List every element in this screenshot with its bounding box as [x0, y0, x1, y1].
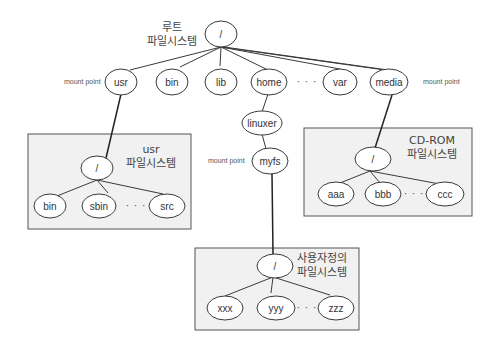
svg-text:/: /: [220, 29, 223, 40]
edge-linuxer-myfs: [262, 134, 266, 149]
edge-root-var: [221, 47, 340, 69]
node-bin: bin: [156, 69, 188, 95]
mount-point-label-myfs: mount point: [208, 157, 245, 165]
node-root: /: [205, 21, 237, 47]
usr-fs-label-line1: usr: [142, 143, 160, 156]
svg-text:/: /: [372, 154, 375, 165]
node-lib: lib: [205, 69, 237, 95]
svg-text:sbin: sbin: [90, 201, 108, 212]
svg-text:ccc: ccc: [438, 189, 453, 200]
edge-root-media-2: [224, 47, 388, 70]
node-usr-fs-bin: bin: [34, 194, 66, 218]
svg-text:xxx: xxx: [218, 303, 233, 314]
filesystem-tree-diagram: 루트 파일시스템 / usr bin lib home · · · var me…: [0, 0, 499, 351]
svg-text:bin: bin: [43, 201, 56, 212]
node-user-fs-xxx: xxx: [207, 296, 243, 320]
cdrom-fs-label-line2: 파일시스템: [407, 147, 457, 161]
svg-text:yyy: yyy: [269, 303, 284, 314]
user-fs-ellipsis: · · ·: [297, 302, 318, 313]
svg-text:aaa: aaa: [328, 189, 345, 200]
usr-fs-label-line2: 파일시스템: [126, 156, 176, 170]
node-linuxer: linuxer: [242, 111, 282, 135]
node-usr-fs-root: /: [81, 156, 113, 180]
mount-point-label-media: mount point: [423, 78, 460, 86]
node-user-fs-zzz: zzz: [318, 296, 354, 320]
node-usr-fs-src: src: [149, 194, 185, 218]
node-myfs: myfs: [252, 148, 288, 174]
edge-root-usr: [130, 47, 221, 70]
svg-text:zzz: zzz: [329, 303, 344, 314]
svg-text:media: media: [375, 77, 403, 88]
cdrom-fs-label-line1: CD-ROM: [409, 134, 455, 147]
usr-fs-ellipsis: · · ·: [126, 200, 147, 211]
svg-text:/: /: [274, 261, 277, 272]
user-fs-label-line2: 파일시스템: [297, 265, 347, 279]
node-cdrom-ccc: ccc: [426, 182, 464, 206]
node-usr-fs-sbin: sbin: [82, 194, 116, 218]
svg-text:src: src: [160, 201, 173, 212]
svg-text:linuxer: linuxer: [247, 118, 277, 129]
svg-text:bbb: bbb: [375, 189, 392, 200]
node-home: home: [251, 69, 287, 95]
node-cdrom-bbb: bbb: [365, 182, 401, 206]
node-media: media: [370, 69, 408, 95]
user-fs-label-line1: 사용자정의: [297, 252, 347, 265]
edge-home-linuxer: [262, 94, 268, 112]
node-cdrom-root: /: [355, 147, 391, 171]
node-usr: usr: [105, 69, 137, 95]
node-cdrom-aaa: aaa: [318, 182, 354, 206]
root-ellipsis: · · ·: [297, 76, 318, 87]
svg-text:/: /: [96, 163, 99, 174]
mount-point-label-usr: mount point: [64, 78, 101, 86]
root-fs-label-line1: 루트: [162, 21, 182, 34]
edge-root-lib: [220, 47, 221, 66]
mount-link-myfs: [272, 174, 273, 254]
svg-text:usr: usr: [114, 77, 129, 88]
node-var: var: [323, 69, 357, 95]
svg-text:var: var: [333, 77, 348, 88]
svg-text:lib: lib: [216, 77, 226, 88]
svg-text:bin: bin: [165, 77, 178, 88]
cdrom-fs-ellipsis: · · ·: [404, 188, 425, 199]
root-fs-label-line2: 파일시스템: [147, 34, 197, 48]
node-user-fs-yyy: yyy: [257, 296, 295, 320]
node-user-fs-root: /: [257, 254, 293, 278]
svg-text:home: home: [256, 77, 281, 88]
edge-root-bin: [180, 47, 221, 67]
svg-text:myfs: myfs: [259, 156, 280, 167]
